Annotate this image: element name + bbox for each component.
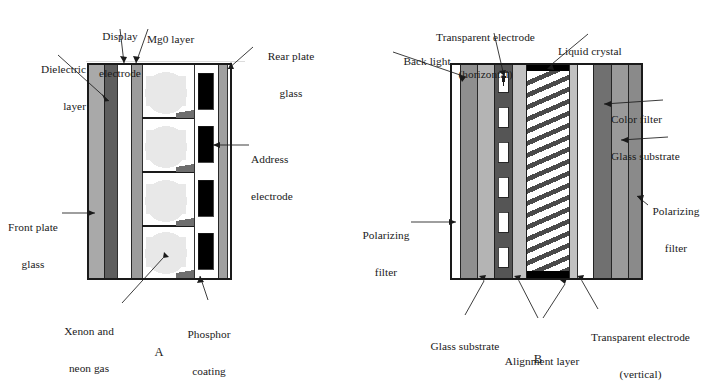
lc-hatch — [521, 279, 574, 302]
panel-b-lcd-display: Back light Transparent electrode (horizo… — [353, 0, 706, 378]
label-xenon-neon-gas: Xenon and neon gas — [52, 300, 126, 385]
gas-glow-tail — [146, 130, 186, 160]
electrode-window — [498, 247, 508, 267]
label-line: Xenon and — [52, 325, 126, 337]
label-phosphor-coating: Phosphor coating — [172, 303, 246, 385]
label-line: filter — [355, 266, 417, 278]
electrode-window — [498, 107, 508, 127]
panel-letter-b: B — [523, 352, 553, 367]
label-line: Polarizing — [355, 229, 417, 241]
layer-color-filter — [593, 64, 611, 279]
address-electrode — [198, 73, 213, 109]
label-line: Polarizing — [645, 205, 706, 217]
label-line: Rear plate — [248, 50, 334, 62]
label-glass-substrate-right: Glass substrate — [611, 125, 706, 187]
label-line: Transparent electrode — [575, 331, 706, 343]
label-line: Liquid crystal — [558, 45, 668, 57]
leader-alignment-b — [543, 284, 565, 318]
label-address-electrode: Address electrode — [251, 128, 343, 227]
label-line: (horizontal) — [403, 68, 568, 80]
gas-glow-tail — [146, 184, 186, 214]
label-line: Phosphor — [172, 328, 246, 340]
leader-te-vertical — [582, 281, 598, 309]
address-electrode — [198, 126, 213, 162]
label-line: Address — [251, 153, 343, 165]
leader-glass-substrate-l — [465, 281, 484, 315]
label-front-plate-glass: Front plate glass — [2, 196, 64, 295]
label-transparent-electrode-vertical: Transparent electrode (vertical) — [575, 306, 706, 385]
label-line: glass — [248, 87, 334, 99]
label-line: (vertical) — [575, 368, 706, 380]
electrode-window — [498, 142, 508, 162]
label-line: Color filter — [611, 113, 706, 125]
label-polarizing-filter-left: Polarizing filter — [355, 204, 417, 303]
gas-glow-tail — [146, 237, 186, 267]
leader-alignment-a — [519, 281, 538, 318]
label-line: coating — [172, 365, 246, 377]
electrode-window — [498, 177, 508, 197]
label-line: layer — [2, 100, 86, 112]
label-polarizing-filter-right: Polarizing filter — [645, 180, 706, 279]
address-electrode — [198, 233, 213, 269]
label-transparent-electrode-horizontal: Transparent electrode (horizontal) — [403, 6, 568, 105]
label-dielectric-layer: Dielectric layer — [2, 38, 86, 137]
address-electrode — [198, 180, 213, 216]
layer-transparent-electrode-vertical — [577, 64, 593, 279]
label-line: Glass substrate — [611, 150, 706, 162]
label-mgo-layer: Mg0 layer — [147, 8, 237, 70]
label-line: filter — [645, 242, 706, 254]
layer-alignment-layer-right — [569, 64, 577, 279]
panel-letter-a: A — [144, 345, 174, 360]
panel-a-plasma-display: Dielectric layer Display electrode Mg0 l… — [0, 0, 353, 378]
label-line: electrode — [251, 190, 343, 202]
electrode-window — [498, 212, 508, 232]
layer-rear-plate-glass — [218, 64, 227, 279]
label-rear-plate-glass: Rear plate glass — [248, 25, 334, 124]
alignment-layer-bar-bottom — [526, 271, 569, 279]
label-line: Front plate — [2, 221, 64, 233]
label-liquid-crystal: Liquid crystal — [558, 20, 668, 82]
label-line: glass — [2, 258, 64, 270]
label-line: neon gas — [52, 362, 126, 374]
label-line: Mg0 layer — [147, 33, 237, 45]
label-line: Transparent electrode — [403, 31, 568, 43]
label-line: Dielectric — [2, 63, 86, 75]
